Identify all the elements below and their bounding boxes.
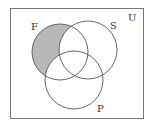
shaded-region-f-only xyxy=(0,0,149,126)
label-f: F xyxy=(31,21,38,32)
label-s: S xyxy=(110,20,117,31)
label-p: P xyxy=(97,103,104,114)
venn-diagram: F S P U xyxy=(0,0,149,126)
label-u: U xyxy=(128,12,136,23)
